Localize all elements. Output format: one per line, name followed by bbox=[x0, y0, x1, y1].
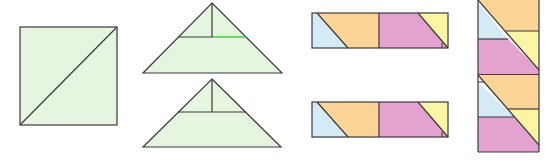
triangle-bottom-figure bbox=[143, 79, 281, 147]
column-figure bbox=[478, 0, 539, 152]
square-figure bbox=[20, 27, 117, 125]
triangle-top-figure bbox=[143, 3, 282, 73]
strip-bottom-figure bbox=[312, 102, 448, 137]
dissection-diagram bbox=[0, 0, 560, 163]
strip-top-figure bbox=[312, 13, 448, 48]
